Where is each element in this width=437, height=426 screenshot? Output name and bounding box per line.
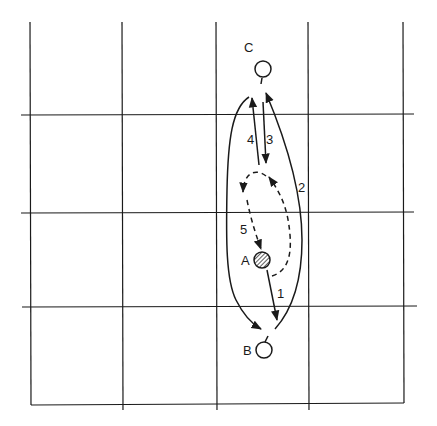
node-b-circle: [256, 342, 272, 358]
path-3-label: 3: [266, 132, 273, 147]
grid-vline-3: [216, 22, 217, 410]
movement-diagram: C A B 4 3 2 5 1: [0, 0, 437, 426]
node-b-tick: [265, 336, 268, 342]
node-a-label: A: [241, 253, 250, 268]
node-c-tick: [261, 78, 262, 84]
node-c-label: C: [244, 40, 253, 55]
path-1: [267, 270, 277, 320]
grid-vline-4: [308, 22, 309, 410]
grid: [21, 22, 417, 410]
node-a: [254, 252, 270, 268]
node-a-circle-hatched: [254, 252, 270, 268]
path-1-label: 1: [277, 286, 284, 301]
grid-hline-1: [21, 114, 414, 115]
path-5-dashed-down: [247, 200, 261, 249]
node-c: [255, 61, 271, 77]
path-2-label: 2: [298, 180, 305, 195]
grid-hline-3: [22, 306, 417, 307]
grid-hline-2: [21, 212, 414, 213]
node-c-circle: [255, 61, 271, 77]
node-b: [256, 342, 272, 358]
path-5-label: 5: [240, 222, 247, 237]
path-4-label: 4: [247, 132, 254, 147]
path-5-dashed-top: [243, 172, 266, 192]
grid-vline-2: [122, 22, 123, 410]
path-5-dashed-right: [269, 177, 290, 276]
node-b-label: B: [243, 343, 252, 358]
